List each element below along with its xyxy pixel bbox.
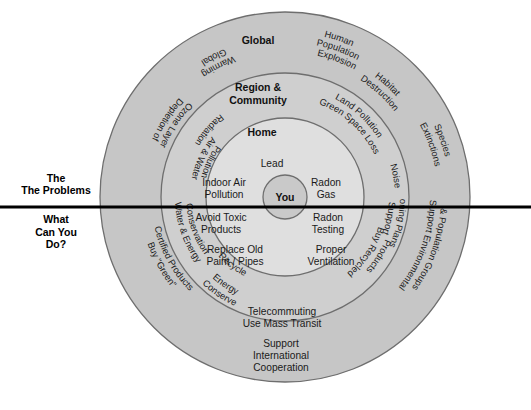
caption-the-problems-line1: The [16,172,96,184]
problem-lead: Lead [261,158,284,169]
ring-heading-region-community-line2: Community [229,94,287,106]
solution-proper-ventilation-line2: Ventilation [307,256,354,267]
solution-support-international-line3: Cooperation [253,362,309,373]
problem-radon-gas-line2: Gas [317,189,336,200]
solution-support-international-line1: Support [263,338,299,349]
solution-telecommuting-line1: Telecommuting [248,306,317,317]
solution-replace-old-paint-pipes-line1: Replace Old [207,244,263,255]
solution-proper-ventilation-line1: Proper [316,244,347,255]
caption-the-problems-line2: The Problems [16,184,96,196]
caption-what-can-you-do-line3: Do? [16,238,96,251]
problem-radon-gas-line1: Radon [311,177,341,188]
concentric-rings-diagram: Global Region & Community Home You Lead … [0,0,531,410]
solution-avoid-toxic-products-line1: Avoid Toxic [195,212,246,223]
ring-heading-region-community-line1: Region & [235,81,281,93]
solution-avoid-toxic-products-line2: Products [201,224,241,235]
diagram-canvas: Global Region & Community Home You Lead … [0,0,531,410]
solution-support-international-line2: International [253,350,309,361]
solution-use-mass-transit-line2: Use Mass Transit [243,318,322,329]
solution-radon-testing-line2: Testing [312,224,345,235]
problem-indoor-air-pollution-line2: Pollution [204,189,243,200]
solution-radon-testing-line1: Radon [313,212,343,223]
caption-the-problems: The The Problems [16,172,96,196]
ring-heading-home: Home [247,126,276,138]
caption-what-can-you-do-line2: Can You [16,226,96,239]
center-you-label: You [275,191,294,203]
caption-what-can-you-do-line1: What [16,213,96,226]
ring-heading-global: Global [242,34,275,46]
caption-what-can-you-do: What Can You Do? [16,213,96,251]
